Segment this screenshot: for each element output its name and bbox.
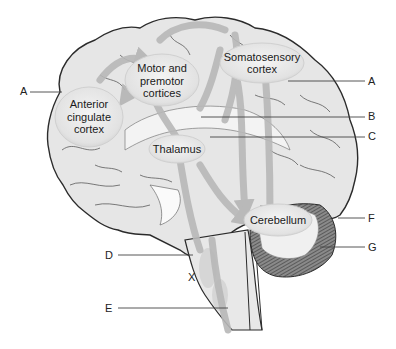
label-somatosensory-cortex: Somatosensory cortex [220,48,304,78]
label-thalamus: Thalamus [149,142,205,156]
label-cerebellum: Cerebellum [244,213,312,227]
brain-diagram: Motor and premotor cortices Somatosensor… [0,0,396,349]
label-motor-premotor-cortices: Motor and premotor cortices [125,58,199,104]
pointer-E: E [105,302,112,314]
marker-X: X [188,271,195,283]
pointer-G: G [368,241,377,253]
brain-illustration [0,0,396,349]
pointer-F: F [368,212,375,224]
pointer-A-left: A [20,85,27,97]
pointer-D: D [105,249,113,261]
pointer-C: C [368,130,376,142]
pointer-A-right: A [368,75,375,87]
label-anterior-cingulate-cortex: Anterior cingulate cortex [55,94,123,140]
pointer-B: B [368,110,375,122]
